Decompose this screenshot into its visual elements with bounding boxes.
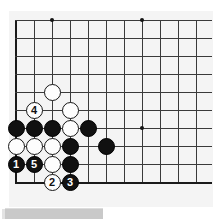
move-stone-4[interactable]: 4 — [26, 102, 43, 119]
stone-white[interactable] — [44, 156, 61, 173]
stone-black[interactable] — [62, 138, 79, 155]
star-point — [140, 126, 144, 130]
grid-line-vertical — [160, 20, 161, 183]
move-stone-5[interactable]: 5 — [26, 156, 43, 173]
stone-black[interactable] — [80, 120, 97, 137]
stone-label: 2 — [49, 176, 55, 187]
stone-black[interactable] — [44, 120, 61, 137]
grid-line-horizontal — [15, 110, 212, 111]
stone-black[interactable] — [26, 120, 43, 137]
grid-line-vertical — [178, 20, 179, 183]
move-stone-3[interactable]: 3 — [62, 174, 79, 191]
grid-line-vertical — [106, 20, 107, 183]
grid-line-horizontal — [15, 20, 212, 21]
stone-white[interactable] — [62, 120, 79, 137]
caption-strip — [5, 208, 103, 219]
grid-line-horizontal — [15, 74, 212, 75]
star-point — [140, 18, 144, 22]
stone-white[interactable] — [62, 102, 79, 119]
stone-white[interactable] — [26, 138, 43, 155]
stone-black[interactable] — [8, 120, 25, 137]
star-point — [50, 18, 54, 22]
stone-white[interactable] — [44, 138, 61, 155]
stone-black[interactable] — [98, 138, 115, 155]
move-stone-2[interactable]: 2 — [44, 174, 61, 191]
grid-line-vertical — [124, 20, 125, 183]
stone-label: 4 — [31, 104, 37, 115]
grid-line-vertical — [142, 20, 143, 183]
move-stone-1[interactable]: 1 — [8, 156, 25, 173]
grid-line-horizontal — [15, 56, 212, 57]
go-diagram-root: 41523 — [0, 0, 213, 219]
stone-label: 3 — [67, 176, 73, 187]
stone-label: 5 — [31, 158, 37, 169]
grid-line-vertical — [196, 20, 197, 183]
grid-line-horizontal — [15, 38, 212, 39]
stone-white[interactable] — [44, 84, 61, 101]
stone-label: 1 — [13, 158, 19, 169]
grid-line-vertical — [88, 20, 89, 183]
go-board[interactable]: 41523 — [9, 11, 213, 207]
stone-white[interactable] — [8, 138, 25, 155]
stone-black[interactable] — [62, 156, 79, 173]
